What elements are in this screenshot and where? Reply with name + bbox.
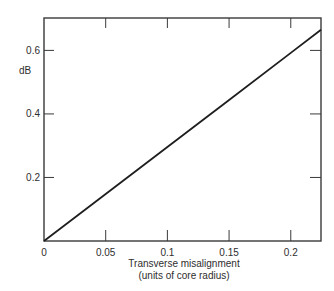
y-tick-label: 0.2 — [26, 172, 40, 183]
chart-container: 00.050.10.150.2 0.20.40.6 dB Transverse … — [0, 0, 334, 291]
x-tick-label: 0 — [41, 247, 47, 258]
y-axis-ticks: 0.20.40.6 — [26, 45, 321, 183]
x-tick-label: 0.05 — [96, 247, 116, 258]
y-tick-label: 0.6 — [26, 45, 40, 56]
x-tick-label: 0.1 — [160, 247, 174, 258]
y-axis-label: dB — [19, 65, 32, 76]
series-line — [44, 30, 321, 241]
y-tick-label: 0.4 — [26, 108, 40, 119]
x-axis-label: Transverse misalignment — [128, 258, 240, 269]
data-series — [44, 30, 321, 241]
x-tick-label: 0.15 — [219, 247, 239, 258]
x-tick-label: 0.2 — [284, 247, 298, 258]
plot-border — [44, 18, 321, 241]
line-chart: 00.050.10.150.2 0.20.40.6 dB Transverse … — [0, 0, 334, 291]
x-axis-unit-label: (units of core radius) — [138, 270, 229, 281]
plot-frame — [44, 18, 321, 241]
x-axis-ticks: 00.050.10.150.2 — [41, 18, 298, 258]
